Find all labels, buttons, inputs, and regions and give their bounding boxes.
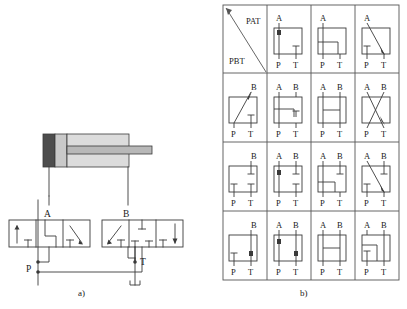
valve-a[interactable] xyxy=(9,220,90,247)
cell-r2c1: A B P T xyxy=(274,151,302,208)
cell-r2c0-b-stub xyxy=(248,166,255,174)
cell-r0c2-box xyxy=(318,28,346,54)
cylinder-piston xyxy=(55,134,67,167)
cell-r1c1-label-t: T xyxy=(293,129,299,139)
cell-r0c2-label-t: T xyxy=(337,60,343,70)
cell-r2c0-label-t: T xyxy=(248,198,254,208)
cell-r1c3-label-a: A xyxy=(364,82,371,92)
cell-r0c1-label-a: A xyxy=(276,13,283,23)
cell-r3c0-label-b: B xyxy=(251,220,257,230)
cell-r3c1-box xyxy=(274,235,302,261)
cell-r1c1: A B P T xyxy=(274,82,302,139)
cell-r2c1-label-t: T xyxy=(293,198,299,208)
cell-r1c2-label-a: A xyxy=(320,82,327,92)
cell-r3c1-label-p: P xyxy=(276,267,281,277)
line-t-join xyxy=(128,247,135,258)
cell-r1c1-t-stub xyxy=(293,111,300,117)
cell-r1c1-label-a: A xyxy=(276,82,283,92)
cell-r1c0: B P T xyxy=(229,82,257,139)
cell-r2c1-label-p: P xyxy=(276,198,281,208)
cell-r3c1-label-b: B xyxy=(293,220,299,230)
cell-r2c0: B P T xyxy=(229,151,257,208)
cell-r0c1-arrow xyxy=(277,30,281,35)
cell-r3c2: A B P T xyxy=(318,220,346,277)
cell-r2c0-t-stub xyxy=(248,184,255,192)
cell-r1c1-label-p: P xyxy=(276,129,281,139)
cell-r2c2-box xyxy=(318,166,346,192)
cell-r3c3-label-t: T xyxy=(381,267,387,277)
cell-r1c1-box xyxy=(274,97,302,123)
valve-symbol-matrix: PAT PBT A P T A P T xyxy=(222,4,400,281)
cell-r3c0-box xyxy=(229,235,257,261)
cell-r3c1: A B P T xyxy=(274,220,302,277)
cell-r0c2-bracket xyxy=(318,42,338,54)
cell-r2c3-p-stub xyxy=(364,184,371,192)
cell-r2c2-label-a: A xyxy=(320,151,327,161)
cell-r1c3-box xyxy=(362,97,390,123)
cell-r2c3: A B P T xyxy=(362,151,390,208)
cell-r3c1-arrow-a xyxy=(277,239,281,244)
circuit-svg: A B xyxy=(0,0,207,309)
label-tank-t: T xyxy=(140,257,146,267)
cell-r2c0-box xyxy=(229,166,257,192)
cylinder xyxy=(43,134,152,167)
cell-r1c0-arrow xyxy=(248,91,253,100)
cell-r3c3-label-p: P xyxy=(364,267,369,277)
header-diagonal-arrow xyxy=(226,8,232,15)
cell-r2c2-b-stub xyxy=(337,166,344,174)
cell-r0c1-label-t: T xyxy=(293,60,299,70)
cell-r0c3-label-p: P xyxy=(364,60,369,70)
cell-r1c2: A B P T xyxy=(318,82,346,139)
caption-b: b) xyxy=(300,288,308,298)
cylinder-end-cap xyxy=(43,134,55,167)
cell-r3c1-label-t: T xyxy=(293,267,299,277)
cell-r1c3-label-p: P xyxy=(364,129,369,139)
cell-r1c0-label-b: B xyxy=(251,82,257,92)
cell-r2c1-box xyxy=(274,166,302,192)
cell-r1c0-t-stub xyxy=(248,115,255,123)
line-p-to-valve-a xyxy=(38,247,49,262)
cell-r0c3-label-a: A xyxy=(364,13,371,23)
cell-r0c3: A P T xyxy=(362,13,390,70)
cell-r1c0-box xyxy=(229,97,257,123)
cell-r0c2-label-a: A xyxy=(320,13,327,23)
matrix-svg: PAT PBT A P T A P T xyxy=(222,4,400,281)
cell-r3c2-label-t: T xyxy=(337,267,343,277)
cell-r1c0-label-t: T xyxy=(248,129,254,139)
junction-t xyxy=(133,260,137,264)
cell-r2c1-arrow xyxy=(277,170,281,175)
cell-r2c0-label-b: B xyxy=(251,151,257,161)
label-port-a: A xyxy=(44,209,51,219)
cell-r2c3-label-p: P xyxy=(364,198,369,208)
cell-r2c1-label-a: A xyxy=(276,151,283,161)
valve-b[interactable] xyxy=(102,220,183,247)
cell-r3c3: A B P T xyxy=(362,220,390,277)
cell-r1c2-label-p: P xyxy=(320,129,325,139)
cell-r1c1-label-b: B xyxy=(293,82,299,92)
circuit-diagram: A B xyxy=(0,0,207,309)
cell-r3c0: B P T xyxy=(229,220,257,277)
line-p-to-valve-b xyxy=(38,247,142,272)
cell-r2c3-label-t: T xyxy=(381,198,387,208)
label-port-b: B xyxy=(123,209,129,219)
cell-r2c1-t-stub xyxy=(293,184,300,192)
cell-r3c2-label-a: A xyxy=(320,220,327,230)
cell-r0c2: A P T xyxy=(318,13,346,70)
cell-r3c1-label-a: A xyxy=(276,220,283,230)
cell-r3c2-label-p: P xyxy=(320,267,325,277)
caption-a: a) xyxy=(78,288,85,298)
cell-r2c3-b-stub xyxy=(381,166,388,174)
cell-r2c2-label-b: B xyxy=(337,151,343,161)
cell-r2c0-label-p: P xyxy=(231,198,236,208)
header-col-key: PAT xyxy=(246,16,261,26)
figure-root: A B xyxy=(0,0,407,309)
cylinder-rod xyxy=(67,146,152,154)
cell-r1c3: A B P T xyxy=(362,82,390,139)
cell-r2c3-label-b: B xyxy=(381,151,387,161)
cell-r3c1-arrow-b xyxy=(294,251,298,256)
valve-a-body xyxy=(9,220,90,247)
cell-r2c1-b-stub xyxy=(293,166,300,174)
cell-r0c3-label-t: T xyxy=(381,60,387,70)
cell-r3c3-box xyxy=(362,235,390,261)
cell-r3c0-arrow xyxy=(249,251,253,256)
